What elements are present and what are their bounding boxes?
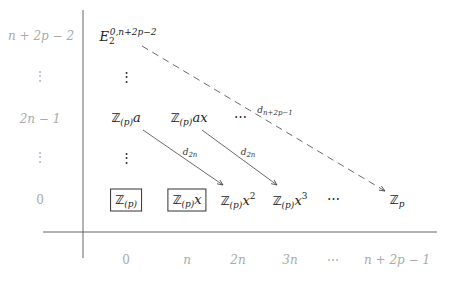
y-label-0: 0: [36, 193, 44, 207]
entry-zp-x-boxed: ℤ(p)x: [167, 189, 206, 212]
x-label-dots: ⋯: [327, 253, 339, 267]
entry-vdots-lower: ⋮: [120, 150, 133, 165]
x-label-0: 0: [122, 253, 130, 267]
label-d2n-2: d2n: [241, 147, 256, 159]
entry-vdots-upper: ⋮: [120, 69, 133, 84]
arrow-d2n-2: [202, 130, 277, 185]
entry-dots-row-2n1: ⋯: [234, 109, 247, 124]
x-label-2n: 2n: [230, 253, 245, 267]
entry-zp-boxed: ℤ(p): [110, 189, 142, 212]
entry-z-p: ℤp: [390, 192, 405, 209]
entry-dots-row-0: ⋯: [327, 191, 340, 206]
entry-zp-x2: ℤ(p)x2: [221, 191, 256, 210]
y-label-n2p2: n + 2p − 2: [8, 29, 74, 43]
entry-zp-x3: ℤ(p)x3: [273, 191, 308, 210]
y-label-vdots-lower: ⋮: [34, 150, 46, 164]
y-label-vdots-upper: ⋮: [34, 69, 46, 83]
entry-zp-ax: ℤ(p)ax: [171, 110, 208, 127]
entry-zp-a: ℤ(p)a: [111, 110, 141, 127]
y-label-2n1: 2n − 1: [20, 112, 61, 126]
x-label-n: n: [183, 253, 191, 267]
label-d2n-1: d2n: [183, 147, 198, 159]
entry-e2-top: E20,n+2p−2: [100, 27, 157, 46]
x-label-3n: 3n: [282, 253, 297, 267]
x-label-n2p1: n + 2p − 1: [364, 253, 430, 267]
label-dn2p1: dn+2p−1: [257, 105, 292, 117]
